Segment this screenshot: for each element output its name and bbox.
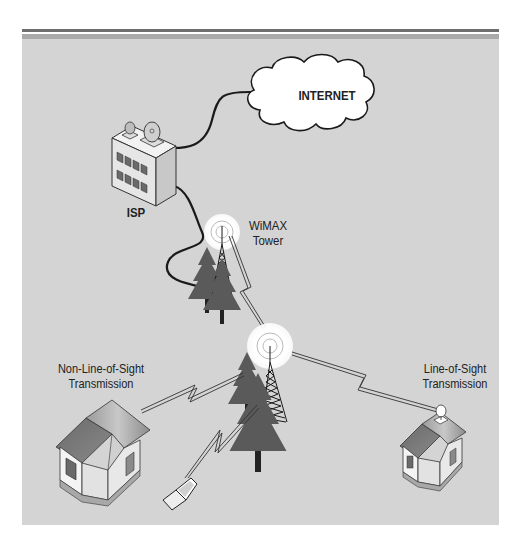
wimax-tower-label-line2: Tower bbox=[242, 233, 295, 248]
los-label-line2: Transmission bbox=[407, 377, 504, 392]
diagram-canvas bbox=[0, 0, 523, 544]
wireless-link-tower-relay bbox=[229, 236, 271, 336]
nlos-label-line1: Non-Line-of-Sight bbox=[44, 362, 158, 377]
laptop-icon bbox=[163, 478, 197, 510]
office-building-with-satellite-dishes-icon bbox=[112, 122, 176, 206]
relay-tower-group bbox=[228, 323, 293, 472]
los-label: Line-of-Sight Transmission bbox=[407, 362, 504, 392]
house-with-dish-icon bbox=[400, 405, 466, 491]
nlos-label: Non-Line-of-Sight Transmission bbox=[44, 362, 158, 392]
house-icon bbox=[56, 400, 150, 506]
internet-label: INTERNET bbox=[296, 88, 358, 103]
los-label-line1: Line-of-Sight bbox=[407, 362, 504, 377]
wimax-tower-label-line1: WiMAX bbox=[242, 218, 295, 233]
nlos-label-line2: Transmission bbox=[44, 377, 158, 392]
isp-label: ISP bbox=[118, 205, 153, 220]
wimax-tower-label: WiMAX Tower bbox=[242, 218, 295, 248]
wire-isp-internet bbox=[173, 92, 252, 148]
wimax-tower-group bbox=[188, 214, 241, 324]
